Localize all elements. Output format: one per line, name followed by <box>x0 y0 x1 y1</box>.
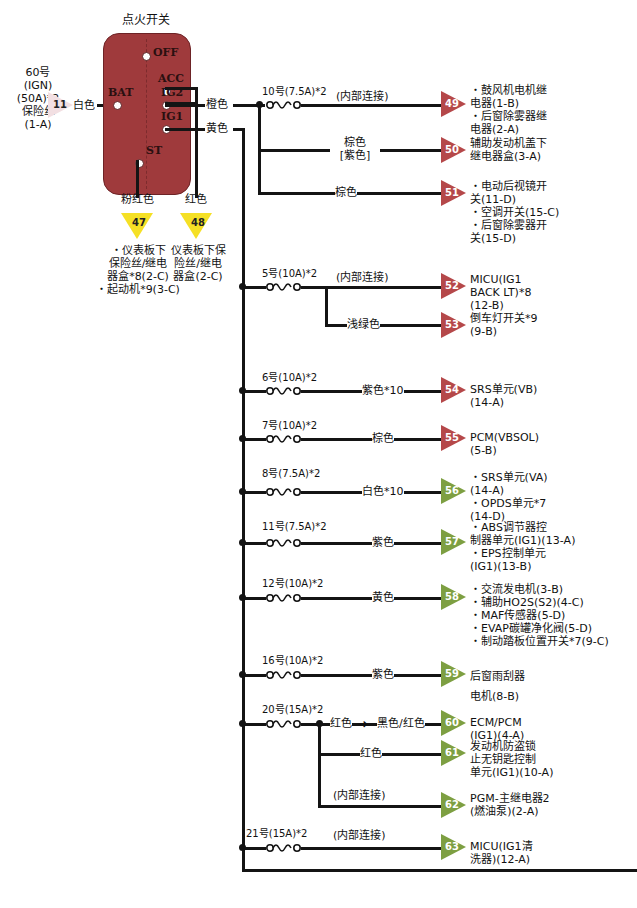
fuse-symbol-20 <box>266 718 302 729</box>
wire-b7-in <box>242 597 266 600</box>
connector-58-desc: ・交流发电机(3-B) ・辅助HO2S(S2)(4-C) ・MAF传感器(5-D… <box>470 583 630 648</box>
fuse-label-20: 20号(15A)*2 <box>262 704 323 716</box>
tap-60-wire-color: 红色 <box>330 717 352 730</box>
connector-62-id: 62 <box>445 799 459 810</box>
wire-ig1-out <box>165 128 205 131</box>
wire-b2-vertical <box>325 286 328 326</box>
wire-transition-arrow-icon: ➜ <box>358 718 368 730</box>
tap-57-wire-color: 紫色 <box>372 536 394 549</box>
terminal-ig1-label: IG1 <box>161 110 183 123</box>
wire-b4-in <box>242 438 266 441</box>
fuse-label-6: 6号(10A)*2 <box>262 372 317 384</box>
connector-60-desc: ECM/PCM (IG1)(4-A) <box>470 716 590 742</box>
connector-11-id: 11 <box>53 99 67 110</box>
connector-51-desc: ・电动后视镜开 关(11-D) ・空调开关(15-C) ・后窗除雾器开 关(15… <box>470 180 600 245</box>
wire-b7-main <box>301 597 441 600</box>
tap-60-wire-color2: 黑色/红色 <box>377 717 425 730</box>
connector-60-id: 60 <box>445 717 459 728</box>
connector-49-desc: ・鼓风机电机继 电器(1-B) ・后窗除雾器继 电器(2-A) <box>470 84 590 136</box>
tap-49-wire-color: (内部连接) <box>336 90 389 103</box>
source-wire-color: 白色 <box>73 99 95 112</box>
wire-b9-vertical <box>318 723 321 808</box>
connector-48-id: 48 <box>191 217 205 228</box>
fuse-label-12: 12号(10A)*2 <box>262 578 323 590</box>
main-trunk-bottom <box>242 869 637 872</box>
fuse-label-11: 11号(7.5A)*2 <box>262 521 327 533</box>
connector-54-id: 54 <box>445 384 459 395</box>
fuse-symbol-16 <box>266 669 302 680</box>
wire-color-orange-label: 橙色 <box>206 98 228 111</box>
tap-61-wire-color: 红色 <box>360 747 382 760</box>
ignition-switch-title: 点火开关 <box>88 14 204 27</box>
connector-52-id: 52 <box>445 280 459 291</box>
connector-61-desc: 发动机防盗锁 止无钥匙控制 单元(IG1)(10-A) <box>470 740 595 779</box>
wire-color-yellow-label: 黄色 <box>206 122 228 135</box>
fuse-symbol-11 <box>266 537 302 548</box>
tap-62-wire-color: (内部连接) <box>333 789 386 802</box>
wire-b8-main <box>301 674 441 677</box>
fuse-symbol-6 <box>266 385 302 396</box>
wire-acc-top <box>165 87 198 90</box>
fuse-symbol-7 <box>266 433 302 444</box>
connector-50-id: 50 <box>445 144 459 155</box>
connector-54-desc: SRS单元(VB) (14-A) <box>470 383 590 409</box>
main-trunk-vertical <box>242 128 245 872</box>
fuse-symbol-5 <box>266 281 302 292</box>
wire-color-red-label: 红色 <box>166 193 226 206</box>
connector-50-desc: 辅助发动机盖下 继电器盒(3-A) <box>470 137 595 163</box>
tap-51-wire-color: 棕色 <box>335 186 357 199</box>
fuse-label-16: 16号(10A)*2 <box>262 655 323 667</box>
wire-b8-in <box>242 674 266 677</box>
connector-63-desc: MICU(IG1清 洗器)(12-A) <box>470 840 590 866</box>
fuse-symbol-12 <box>266 592 302 603</box>
tap-54-wire-color: 紫色*10 <box>362 384 404 397</box>
wire-b9-in <box>242 723 266 726</box>
wire-b10-in <box>242 847 266 850</box>
tap-52-wire-color: (内部连接) <box>336 271 389 284</box>
wire-b9-tap62 <box>318 805 441 808</box>
connector-59-id: 59 <box>445 668 459 679</box>
connector-55-desc: PCM(VBSOL) (5-B) <box>470 431 590 457</box>
wire-b2-main <box>301 286 441 289</box>
connector-57-id: 57 <box>445 536 459 547</box>
fuse-symbol-21 <box>266 842 302 853</box>
terminal-bat-label: BAT <box>108 86 133 99</box>
wire-b2-tap53 <box>325 324 441 327</box>
fuse-label-21: 21号(15A)*2 <box>246 828 307 840</box>
ignition-switch-body[interactable]: OFF ACC BAT IG2 IG1 ST <box>103 33 191 195</box>
connector-58-id: 58 <box>445 591 459 602</box>
wire-b4-main <box>301 438 441 441</box>
terminal-off-label: OFF <box>153 46 178 59</box>
connector-51-id: 51 <box>445 187 459 198</box>
wire-b1-main <box>301 104 441 107</box>
connector-63-id: 63 <box>445 841 459 852</box>
fuse-symbol-8 <box>266 486 302 497</box>
terminal-acc-label: ACC <box>158 72 184 85</box>
fuse-symbol-10 <box>266 99 302 110</box>
connector-61-id: 61 <box>445 747 459 758</box>
tap-56-wire-color: 白色*10 <box>362 485 404 498</box>
fuse-label-7: 7号(10A)*2 <box>262 420 317 432</box>
tap-53-wire-color: 浅绿色 <box>347 318 380 331</box>
terminal-st-label: ST <box>146 144 162 157</box>
connector-56-id: 56 <box>445 485 459 496</box>
wire-color-pink-label: 粉红色 <box>107 193 167 206</box>
connector-56-desc: ・SRS单元(VA) (14-A) ・OPDS单元*7 (14-D) <box>470 471 595 523</box>
connector-48-desc: 仪表板下保 险丝/继电 器盒(2-C) <box>163 244 233 283</box>
tap-59-wire-color: 紫色 <box>372 668 394 681</box>
connector-59-desc: 后窗雨刮器 电机(8-B) <box>470 667 600 707</box>
terminal-off-dot[interactable] <box>142 52 151 61</box>
fuse-label-10: 10号(7.5A)*2 <box>262 86 327 98</box>
wire-b3-in <box>242 390 266 393</box>
tap-55-wire-color: 棕色 <box>372 432 394 445</box>
switch-dashed-line <box>146 39 147 189</box>
tap-63-wire-color: (内部连接) <box>333 829 386 842</box>
connector-47-id: 47 <box>132 217 146 228</box>
terminal-bat-dot[interactable] <box>113 101 122 110</box>
wire-b10-main <box>301 847 441 850</box>
wire-b6-in <box>242 542 266 545</box>
wire-b6-main <box>301 542 441 545</box>
fuse-label-5: 5号(10A)*2 <box>262 268 317 280</box>
wire-b2-in <box>242 286 266 289</box>
connector-57-desc: ・ABS调节器控 制器单元(IG1)(13-A) ・EPS控制单元 (IG1)(… <box>470 521 610 573</box>
